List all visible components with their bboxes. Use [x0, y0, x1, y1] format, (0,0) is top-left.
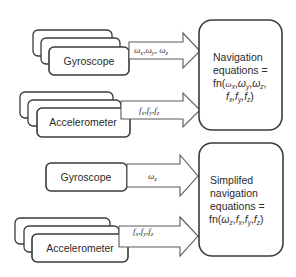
bottom-accel-arrow: fx,fy,fz	[119, 217, 198, 256]
bottom-gyroscope-label: Gyroscope	[61, 171, 112, 183]
top-accelerometer-stack: Accelerometer	[20, 92, 130, 137]
bottom-accelerometer-stack: Accelerometer	[15, 218, 128, 262]
bottom-gyro-arrow: ωz	[127, 155, 198, 196]
arrow-shape	[127, 155, 198, 196]
top-gyroscope-stack: Gyroscope	[33, 30, 129, 75]
equations-line-2: equations =	[213, 64, 268, 76]
navigation-equations-box: Navigation equations = fn(ωx,ωy,ωz, fx,f…	[199, 20, 282, 130]
bottom-accelerometer-label: Accelerometer	[46, 242, 114, 254]
simplified-equations-box: Simplifed navigation equations = fn(ωz,f…	[199, 143, 283, 256]
top-accelerometer-label: Accelerometer	[49, 116, 117, 128]
arrow-shape	[121, 93, 200, 127]
arrow-shape	[119, 217, 198, 256]
simplified-line-4: fn(ωz,fx,fy,fz)	[209, 213, 263, 227]
bottom-gyroscope: Gyroscope	[46, 163, 127, 191]
top-accel-arrow: fx,fy,fz	[121, 93, 200, 127]
simplified-line-3: equations =	[210, 200, 265, 212]
top-gyroscope-label: Gyroscope	[64, 55, 115, 67]
top-gyro-signal-label: ωx,ωy, ωz	[134, 45, 169, 56]
simplified-line-2: navigation	[210, 187, 258, 199]
equations-line-1: Navigation	[213, 51, 263, 63]
top-gyro-arrow: ωx,ωy, ωz	[129, 33, 200, 68]
simplified-line-1: Simplifed	[210, 174, 253, 186]
navigation-diagram: Gyroscope ωx,ωy, ωz Accelerometer fx,fy,…	[0, 0, 296, 277]
equations-line-3: fn(ωx,ωy,ωz,	[213, 77, 267, 91]
